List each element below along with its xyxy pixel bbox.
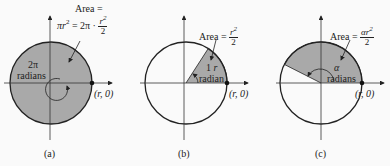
angle-unit-c: radians [327, 73, 356, 84]
point-r0 [360, 81, 365, 86]
area-formula-a: πr2 = 2π · r22 [57, 17, 107, 36]
arc-length-b: 1 r [206, 62, 217, 73]
angle-value-c: α [334, 62, 339, 73]
area-title-a: Area = [75, 3, 103, 14]
caption-a: (a) [44, 148, 55, 159]
point-label-b: (r, 0) [229, 88, 248, 99]
caption-b: (b) [178, 148, 190, 159]
area-label-c: Area = αr22 [330, 28, 374, 47]
angle-unit-b: radian [199, 73, 224, 84]
point-label-c: (r, 0) [355, 88, 374, 99]
caption-c: (c) [315, 148, 326, 159]
point-label-a: (r, 0) [94, 88, 113, 99]
angle-value-a: 2π [28, 59, 38, 70]
area-label-b: Area = r22 [199, 28, 238, 47]
point-r0 [225, 81, 230, 86]
angle-unit-a: radians [17, 70, 46, 81]
point-r0 [90, 81, 95, 86]
